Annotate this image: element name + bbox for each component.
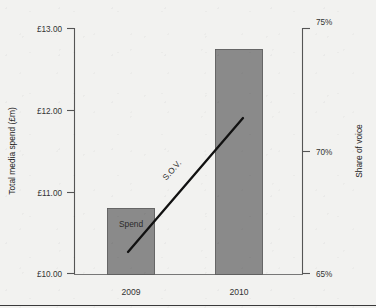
sov-line-label: S.O.V.: [161, 159, 183, 183]
bar-series-spend: Spend: [108, 50, 263, 275]
left-axis: £13.00 £12.00 £11.00 £10.00 Total media …: [7, 25, 75, 280]
x-axis-label-2010: 2010: [229, 287, 248, 297]
right-axis-label-75: 75%: [316, 18, 332, 27]
chart-figure: £13.00 £12.00 £11.00 £10.00 Total media …: [0, 0, 376, 308]
right-axis-label-70: 70%: [316, 148, 332, 157]
right-axis-title: Share of voice: [354, 124, 364, 178]
right-axis-label-65: 65%: [316, 270, 332, 279]
x-axis-labels: 2009 2010: [121, 287, 248, 297]
left-axis-label-11: £11.00: [38, 189, 63, 198]
left-axis-label-13: £13.00: [37, 25, 62, 34]
bar-2010[interactable]: [216, 50, 263, 275]
bar-inline-label-spend: Spend: [119, 219, 144, 229]
chart-canvas: £13.00 £12.00 £11.00 £10.00 Total media …: [0, 0, 376, 308]
left-axis-title: Total media spend (£m): [7, 107, 17, 195]
left-axis-label-10: £10.00: [37, 270, 62, 279]
left-axis-label-12: £12.00: [37, 107, 62, 116]
right-axis: 75% 70% 65% Share of voice: [303, 18, 365, 279]
x-axis-label-2009: 2009: [121, 287, 140, 297]
